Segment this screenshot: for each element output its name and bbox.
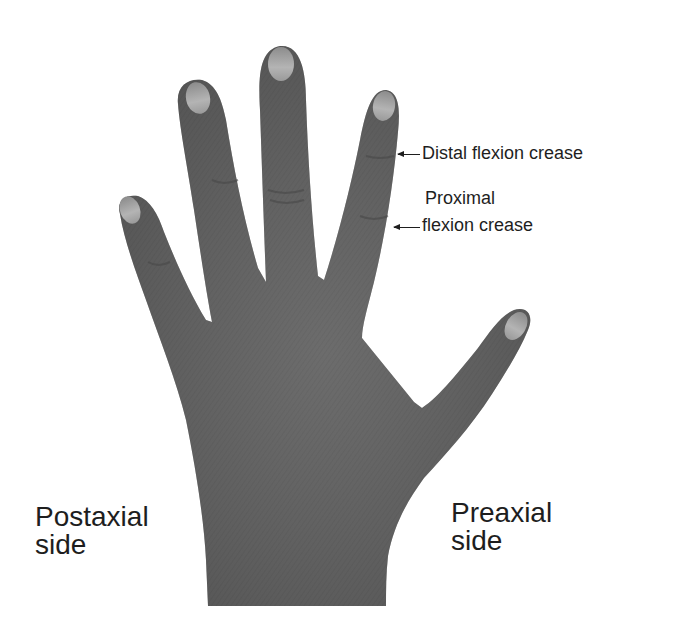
postaxial-side-label-line2: side: [35, 531, 86, 559]
postaxial-side-label-line1: Postaxial: [35, 503, 149, 531]
hand-photograph: [0, 0, 674, 641]
proximal-crease-label-line1: Proximal: [425, 189, 495, 208]
hand-anatomy-figure: Distal flexion crease Proximal flexion c…: [0, 0, 674, 641]
preaxial-side-label-line1: Preaxial: [451, 499, 552, 527]
distal-flexion-crease-label: Distal flexion crease: [422, 144, 583, 163]
proximal-crease-label-line2: flexion crease: [422, 216, 533, 235]
distal-crease-arrow: [398, 154, 420, 155]
middle-finger-nail: [268, 47, 294, 81]
proximal-crease-arrow: [394, 227, 420, 228]
preaxial-side-label-line2: side: [451, 527, 502, 555]
